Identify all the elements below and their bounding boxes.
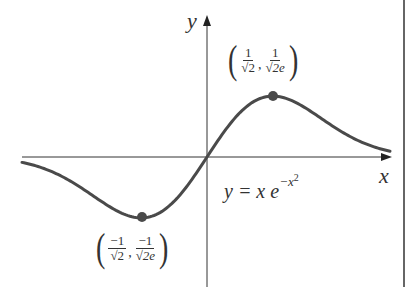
min-point — [137, 212, 147, 222]
max-point-label: ( 1 √2 , 1 √2e ) — [226, 40, 300, 80]
min-x-fraction: −1 √2 — [108, 234, 126, 263]
min-y-num: −1 — [136, 234, 154, 249]
function-plot — [0, 0, 411, 287]
left-paren: ( — [228, 40, 237, 80]
comma: , — [128, 245, 132, 261]
max-y-fraction: 1 √2e — [264, 46, 285, 75]
right-paren: ) — [159, 228, 168, 268]
left-paren: ( — [96, 228, 105, 268]
min-x-den: √2 — [109, 249, 125, 263]
max-x-fraction: 1 √2 — [240, 46, 256, 75]
min-x-num: −1 — [108, 234, 126, 249]
x-axis-label: x — [379, 163, 389, 189]
max-x-num: 1 — [243, 46, 254, 61]
y-axis-label: y — [187, 8, 197, 34]
min-point-label: ( −1 √2 , −1 √2e ) — [94, 228, 170, 268]
min-y-fraction: −1 √2e — [135, 234, 156, 263]
equation-exp: −x — [279, 174, 294, 189]
max-y-den: √2e — [264, 61, 285, 75]
right-paren: ) — [289, 40, 298, 80]
y-axis-arrow-icon — [203, 15, 211, 26]
max-y-num: 1 — [270, 46, 281, 61]
x-axis-arrow-icon — [381, 153, 392, 161]
comma: , — [258, 57, 262, 73]
equation-label: y = x e−x2 — [224, 176, 299, 203]
equation-prefix: y = x e — [224, 180, 279, 202]
equation-exp-pow: 2 — [294, 172, 299, 183]
min-y-den: √2e — [135, 249, 156, 263]
max-x-den: √2 — [240, 61, 256, 75]
max-point — [268, 91, 278, 101]
